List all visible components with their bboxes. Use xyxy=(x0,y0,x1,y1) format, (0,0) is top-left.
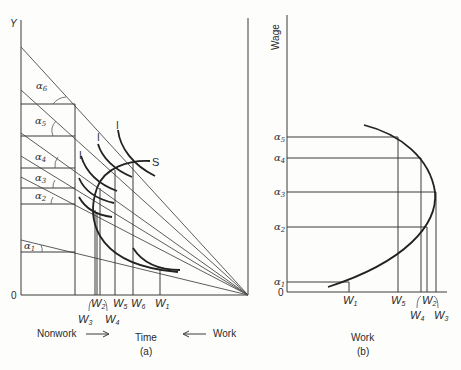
wage-label-a3: α3 xyxy=(274,186,286,199)
nonwork-label: Nonwork xyxy=(37,328,77,339)
panel-a: α6 α5 α4 α3 α2 α1 I xyxy=(10,18,248,357)
panel-b-caption: (b) xyxy=(357,346,369,357)
label-w2: W2 xyxy=(91,297,105,310)
label-w5: W5 xyxy=(113,297,127,310)
arrow-left-icon xyxy=(183,331,206,337)
budget-line-a6 xyxy=(21,47,248,295)
wage-axis-label: Wage xyxy=(270,24,281,50)
budget-line-a4 xyxy=(21,133,248,295)
label-w1: W1 xyxy=(155,297,169,310)
angle-boxes xyxy=(21,104,75,295)
labor-supply-diagram: α6 α5 α4 α3 α2 α1 I xyxy=(0,0,461,370)
budget-line-a3 xyxy=(21,156,248,295)
label-w4: W4 xyxy=(105,313,119,326)
budget-line-a5 xyxy=(21,90,248,295)
time-caption: Time xyxy=(135,332,157,343)
indifference-label: I xyxy=(79,150,82,161)
budget-line-a1 xyxy=(21,240,248,295)
y-axis-label: Y xyxy=(10,18,18,29)
angle-arc-a3 xyxy=(53,180,55,188)
label-w6: W6 xyxy=(131,297,145,310)
indifference-curve xyxy=(81,156,117,191)
angle-arc-a6 xyxy=(53,97,66,104)
work-labels-a: W2 W5 W6 W1 W3 W4 xyxy=(78,297,169,326)
angle-arc-a1 xyxy=(41,245,42,252)
work-verticals-b xyxy=(349,137,436,292)
alpha-labels-b: α5 α4 α3 α2 α1 xyxy=(274,131,286,289)
work-verticals-a xyxy=(95,162,160,295)
work-labels-b: W1 W5 W2 W4 W3 xyxy=(343,294,448,322)
panel-b: Wage 0 α5 α4 α3 α2 α1 xyxy=(270,15,448,357)
indifference-label: I xyxy=(116,120,119,131)
alpha-label-1: α1 xyxy=(24,240,35,253)
work-caption-b: Work xyxy=(351,332,375,343)
alpha-label-2: α2 xyxy=(35,190,47,203)
supply-curve-label: S xyxy=(152,156,159,168)
budget-lines xyxy=(21,47,248,295)
indifference-curve xyxy=(133,248,180,270)
budget-line-a2 xyxy=(21,177,248,295)
labor-supply-curve xyxy=(328,125,435,287)
panel-a-caption: (a) xyxy=(140,346,152,357)
angle-arc-a5 xyxy=(52,121,56,136)
label-b-w5: W5 xyxy=(391,294,405,307)
bracket-left-b xyxy=(417,296,421,308)
wage-label-a4: α4 xyxy=(274,152,285,165)
alpha-labels-a: α6 α5 α4 α3 α2 α1 xyxy=(24,80,48,253)
label-b-w4: W4 xyxy=(410,309,424,322)
angle-arc-a2 xyxy=(51,197,53,204)
indifference-label: I xyxy=(97,132,100,143)
alpha-label-4: α4 xyxy=(35,151,46,164)
alpha-label-5: α5 xyxy=(35,115,47,128)
indifference-curve xyxy=(118,130,155,176)
origin-label-a: 0 xyxy=(11,290,17,301)
label-b-w1: W1 xyxy=(343,294,357,307)
indifference-labels: I I I xyxy=(79,120,119,161)
arrow-right-icon xyxy=(86,331,109,337)
label-w3: W3 xyxy=(78,313,92,326)
wage-label-a2: α2 xyxy=(274,221,286,234)
wage-lines xyxy=(287,137,436,282)
label-b-w3: W3 xyxy=(434,309,448,322)
wage-label-a5: α5 xyxy=(274,131,286,144)
alpha-label-6: α6 xyxy=(36,80,48,93)
work-label-a: Work xyxy=(213,328,237,339)
alpha-label-3: α3 xyxy=(35,172,47,185)
diagram-canvas: α6 α5 α4 α3 α2 α1 I xyxy=(0,0,461,370)
